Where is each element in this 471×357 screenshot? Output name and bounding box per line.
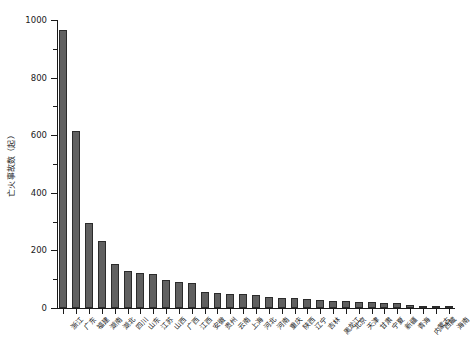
x-axis-tick-label: 广西 xyxy=(187,316,202,331)
x-axis-tick-label: 河南 xyxy=(276,316,291,331)
x-axis-tick-label: 青海 xyxy=(418,316,433,331)
x-axis-tick-label: 湖北 xyxy=(122,316,137,331)
x-axis-tick-label: 江西 xyxy=(199,316,214,331)
x-axis-tick-label: 湖南 xyxy=(110,316,125,331)
x-axis-tick-label: 海南 xyxy=(456,316,471,331)
x-axis-tick-label: 天津 xyxy=(366,316,381,331)
x-axis-tick-label: 重庆 xyxy=(289,316,304,331)
x-axis-tick-label: 吉林 xyxy=(328,316,343,331)
